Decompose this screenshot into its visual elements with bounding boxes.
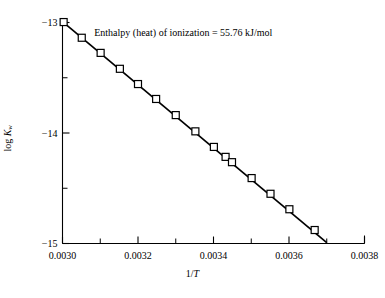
data-point-marker bbox=[228, 159, 235, 166]
data-point-marker bbox=[267, 190, 274, 197]
y-tick-label: −15 bbox=[42, 238, 58, 249]
data-point-marker bbox=[311, 227, 318, 234]
data-point-marker bbox=[78, 34, 85, 41]
van-t-hoff-plot-figure: 0.00300.00320.00340.00360.0038−13−14−15 … bbox=[0, 0, 385, 298]
annotation-layer: Enthalpy (heat) of ionization = 55.76 kJ… bbox=[94, 27, 272, 39]
data-point-marker bbox=[97, 49, 104, 56]
data-point-marker bbox=[172, 112, 179, 119]
x-axis-title: 1/T bbox=[0, 268, 385, 279]
data-point-marker bbox=[286, 206, 293, 213]
x-tick-label: 0.0032 bbox=[124, 250, 152, 261]
x-tick-label: 0.0038 bbox=[351, 250, 379, 261]
tick-labels-layer: 0.00300.00320.00340.00360.0038−13−14−15 bbox=[42, 17, 378, 260]
chart-annotation: Enthalpy (heat) of ionization = 55.76 kJ… bbox=[94, 27, 272, 39]
x-tick-label: 0.0036 bbox=[275, 250, 303, 261]
data-series-layer bbox=[60, 19, 327, 243]
data-point-marker bbox=[210, 143, 217, 150]
y-axis-title: log Kw bbox=[2, 108, 15, 168]
data-point-marker bbox=[116, 65, 123, 72]
axes-layer bbox=[63, 23, 365, 244]
data-point-marker bbox=[135, 81, 142, 88]
chart-canvas: 0.00300.00320.00340.00360.0038−13−14−15 … bbox=[0, 0, 385, 298]
data-point-marker bbox=[60, 19, 67, 26]
data-point-marker bbox=[248, 175, 255, 182]
x-tick-label: 0.0030 bbox=[49, 250, 77, 261]
data-point-marker bbox=[153, 95, 160, 102]
data-point-marker bbox=[192, 128, 199, 135]
y-tick-label: −14 bbox=[42, 128, 58, 139]
y-tick-label: −13 bbox=[42, 17, 58, 28]
x-tick-label: 0.0034 bbox=[200, 250, 228, 261]
